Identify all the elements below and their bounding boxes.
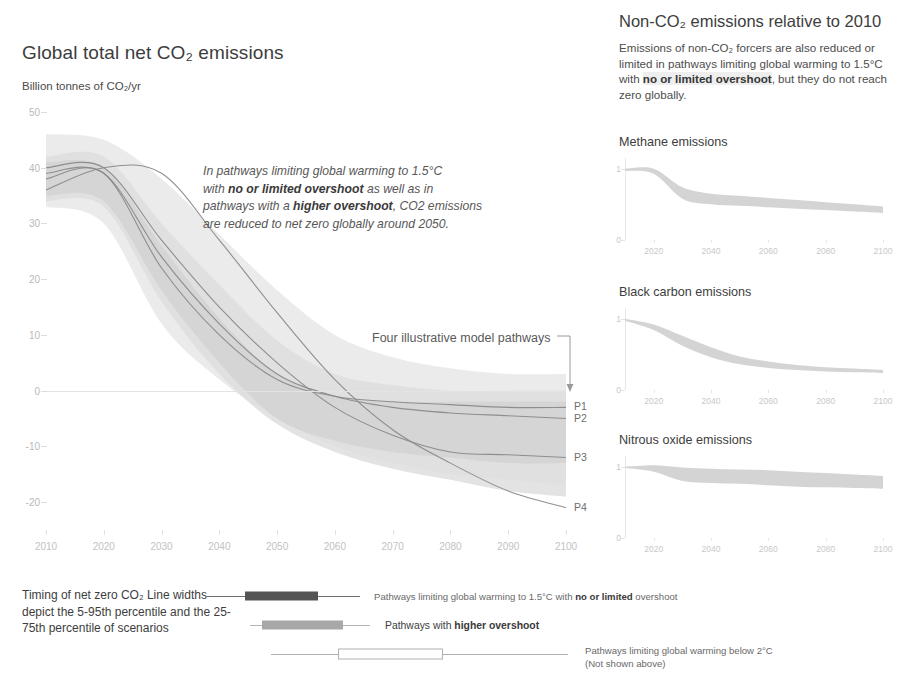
x-axis-tick xyxy=(711,240,712,243)
y-axis-tick-label: -20 xyxy=(26,497,40,508)
pathway-label-P3: P3 xyxy=(574,451,587,463)
x-axis-tick-label: 2020 xyxy=(644,396,663,406)
four-pathways-label: Four illustrative model pathways xyxy=(372,331,551,345)
box-3 xyxy=(338,649,443,660)
x-axis-tick-label: 2060 xyxy=(759,246,778,256)
x-axis-tick xyxy=(768,538,769,541)
pathway-label-P2: P2 xyxy=(574,412,587,424)
x-axis-tick xyxy=(46,530,47,535)
y-axis-tick-label: 50 xyxy=(29,107,40,118)
nitrous-oxide-panel-title: Nitrous oxide emissions xyxy=(619,433,752,447)
x-axis-tick xyxy=(654,538,655,541)
x-axis-tick xyxy=(768,390,769,393)
legend-1-c: overshoot xyxy=(633,591,678,602)
band xyxy=(625,319,883,373)
legend-label-3: Pathways limiting global warming below 2… xyxy=(585,645,773,670)
y-axis-tick xyxy=(621,240,625,241)
x-axis-tick-label: 2100 xyxy=(874,246,893,256)
x-axis-tick xyxy=(826,390,827,393)
x-axis-tick xyxy=(450,530,451,535)
x-axis-tick xyxy=(826,538,827,541)
y-axis-tick-label: 30 xyxy=(29,218,40,229)
x-axis-tick xyxy=(104,530,105,535)
y-axis-tick-label: 10 xyxy=(29,329,40,340)
x-axis-tick-label: 2020 xyxy=(644,246,663,256)
band xyxy=(625,167,883,213)
x-axis-tick-label: 2040 xyxy=(208,541,230,552)
x-axis-tick-label: 2100 xyxy=(555,541,577,552)
y-axis-tick xyxy=(41,502,47,503)
legend-row-higher-overshoot: Pathways with higher overshoot xyxy=(0,614,906,636)
legend-1-b: no or limited xyxy=(575,591,633,602)
x-axis-tick xyxy=(277,530,278,535)
legend-label-1: Pathways limiting global warming to 1.5°… xyxy=(374,591,678,602)
zero-baseline xyxy=(46,391,566,392)
non-co2-sub-highlight: no or limited overshoot xyxy=(643,72,772,85)
y-axis-tick xyxy=(41,223,47,224)
pathway-label-P4: P4 xyxy=(574,501,587,513)
methane-panel-title: Methane emissions xyxy=(619,135,728,149)
x-axis-tick-label: 2060 xyxy=(324,541,346,552)
y-axis-tick xyxy=(41,391,47,392)
x-axis-tick-label: 2020 xyxy=(644,544,663,554)
x-axis-tick-label: 2040 xyxy=(702,544,721,554)
y-axis-tick xyxy=(41,279,47,280)
legend-3-note: (Not shown above) xyxy=(585,658,666,669)
pathways-pointer-arrow xyxy=(556,326,580,400)
x-axis-tick-label: 2040 xyxy=(702,396,721,406)
band xyxy=(625,465,883,489)
annot-line1: In pathways limiting global warming to 1… xyxy=(203,164,442,178)
x-axis-tick xyxy=(654,240,655,243)
annot-line4: are reduced to net zero globally around … xyxy=(203,217,449,231)
annot-line2a: with xyxy=(203,182,228,196)
y-axis-tick xyxy=(621,169,625,170)
net-zero-timing-legend: Timing of net zero CO₂ Line widths depic… xyxy=(0,575,906,696)
y-axis-tick xyxy=(41,446,47,447)
nitrous-oxide-plot-area: 0120202040206020802100 xyxy=(625,456,883,538)
x-axis-tick-label: 2020 xyxy=(93,541,115,552)
x-axis-tick-label: 2100 xyxy=(874,396,893,406)
x-axis-tick xyxy=(883,390,884,393)
annot-higher-overshoot: higher overshoot xyxy=(293,199,393,213)
y-axis-tick-label: -10 xyxy=(26,441,40,452)
annot-line3c: , CO2 emissions xyxy=(393,199,482,213)
x-axis-tick-label: 2010 xyxy=(35,541,57,552)
x-axis-tick-label: 2080 xyxy=(816,246,835,256)
non-co2-panel: Non-CO₂ emissions relative to 2010 Emiss… xyxy=(597,0,906,570)
x-axis-tick xyxy=(654,390,655,393)
x-axis-tick xyxy=(393,530,394,535)
x-axis-tick-label: 2070 xyxy=(382,541,404,552)
methane-plot-area: 0120202040206020802100 xyxy=(625,158,883,240)
y-axis-unit-label: Billion tonnes of CO₂/yr xyxy=(22,80,141,92)
x-axis-tick xyxy=(883,538,884,541)
x-axis-tick xyxy=(162,530,163,535)
x-axis-tick xyxy=(335,530,336,535)
y-axis-tick xyxy=(41,168,47,169)
x-axis-tick-label: 2080 xyxy=(439,541,461,552)
x-axis-tick xyxy=(219,530,220,535)
legend-2-b: higher overshoot xyxy=(454,620,539,631)
y-axis-tick xyxy=(41,335,47,336)
non-co2-subtitle: Emissions of non-CO₂ forcers are also re… xyxy=(619,40,904,102)
x-axis-tick-label: 2060 xyxy=(759,544,778,554)
x-axis-tick xyxy=(711,538,712,541)
y-axis-tick-label: 40 xyxy=(29,162,40,173)
y-axis-tick-label: 0 xyxy=(34,385,40,396)
x-axis-tick-label: 2040 xyxy=(702,246,721,256)
x-axis-tick-label: 2050 xyxy=(266,541,288,552)
x-axis-tick-label: 2030 xyxy=(150,541,172,552)
x-axis-tick-label: 2090 xyxy=(497,541,519,552)
x-axis-tick xyxy=(883,240,884,243)
legend-3-a: Pathways limiting global warming below 2… xyxy=(585,645,773,656)
x-axis-tick xyxy=(711,390,712,393)
global-co2-chart-panel: Global total net CO₂ emissions Billion t… xyxy=(0,0,600,570)
annot-line3a: pathways with a xyxy=(203,199,293,213)
y-axis-tick-label: 20 xyxy=(29,274,40,285)
y-axis-tick xyxy=(621,467,625,468)
nitrous-oxide-chart-svg xyxy=(625,456,883,538)
x-axis-tick-label: 2080 xyxy=(816,544,835,554)
legend-row-no-limited-overshoot: Pathways limiting global warming to 1.5°… xyxy=(0,585,906,607)
black-carbon-panel-title: Black carbon emissions xyxy=(619,285,751,299)
page-title: Global total net CO₂ emissions xyxy=(22,42,284,64)
box-1 xyxy=(245,592,318,601)
